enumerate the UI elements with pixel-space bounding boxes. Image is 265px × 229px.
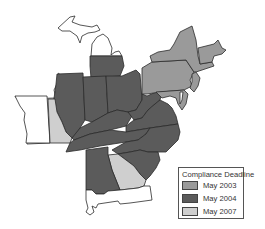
legend-item-may-2004: May 2004 (182, 192, 240, 205)
legend-item-may-2003: May 2003 (182, 179, 240, 192)
region-michigan-lower-north (91, 34, 122, 56)
region-pennsylvania (142, 60, 194, 94)
legend-label: May 2007 (203, 207, 236, 216)
legend-swatch-may-2004 (182, 194, 198, 203)
legend-label: May 2003 (203, 181, 236, 190)
region-ohio (106, 70, 142, 113)
legend-swatch-may-2007 (182, 207, 198, 216)
legend-label: May 2004 (203, 194, 236, 203)
region-michigan-south (90, 56, 124, 78)
legend-item-may-2007: May 2007 (182, 205, 240, 218)
region-west-excluded (15, 96, 50, 143)
legend: Compliance Deadline May 2003 May 2004 Ma… (178, 167, 244, 219)
region-new-england (198, 40, 226, 64)
legend-title: Compliance Deadline (182, 170, 240, 179)
legend-swatch-may-2003 (182, 181, 198, 190)
region-michigan-upper (58, 16, 100, 43)
